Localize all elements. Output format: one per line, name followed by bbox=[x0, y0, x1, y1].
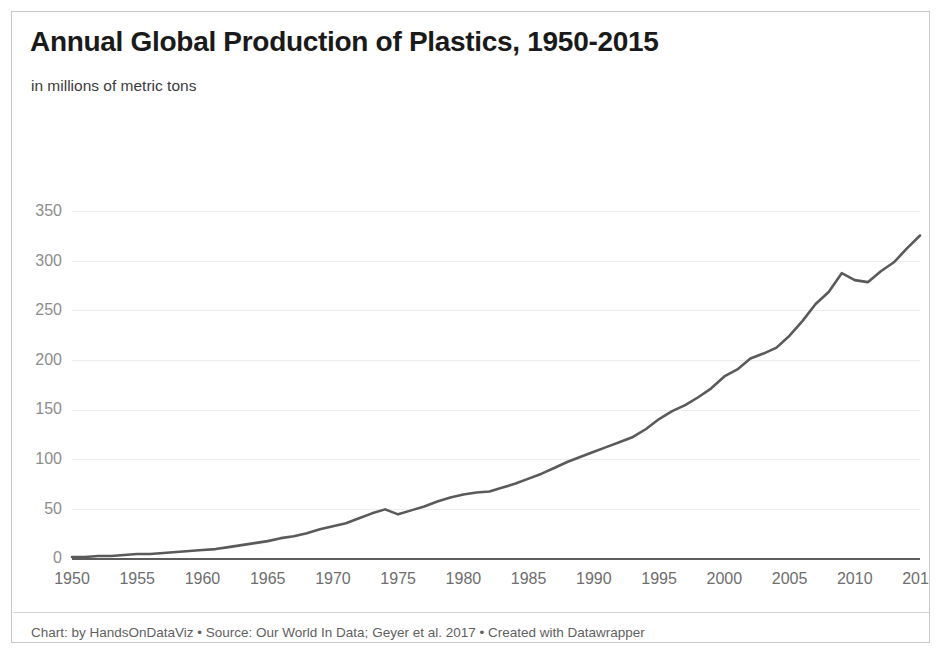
footer-divider bbox=[13, 612, 930, 613]
x-axis-tick-label: 1960 bbox=[185, 570, 221, 587]
x-axis-tick-label: 1980 bbox=[446, 570, 482, 587]
y-axis-tick-label: 100 bbox=[35, 450, 62, 467]
chart-subtitle: in millions of metric tons bbox=[31, 77, 196, 95]
y-axis-tick-label: 350 bbox=[35, 202, 62, 219]
chart-title: Annual Global Production of Plastics, 19… bbox=[30, 26, 659, 58]
plot-area: 050100150200250300350 195019551960196519… bbox=[12, 112, 929, 602]
y-axis-tick-label: 0 bbox=[53, 549, 62, 566]
y-axis-tick-label: 250 bbox=[35, 301, 62, 318]
x-axis-tick-label: 1965 bbox=[250, 570, 286, 587]
x-axis-tick-label: 1955 bbox=[119, 570, 155, 587]
y-axis-tick-label: 50 bbox=[44, 500, 62, 517]
x-axis-tick-label: 1975 bbox=[380, 570, 416, 587]
y-axis-tick-label: 150 bbox=[35, 400, 62, 417]
y-axis-tick-label: 300 bbox=[35, 252, 62, 269]
chart-footer-credits: Chart: by HandsOnDataViz • Source: Our W… bbox=[31, 625, 645, 640]
x-axis-tick-label: 1985 bbox=[511, 570, 547, 587]
line-chart-svg: 050100150200250300350 195019551960196519… bbox=[12, 112, 929, 602]
production-line-series bbox=[72, 236, 920, 558]
x-axis-tick-label: 2010 bbox=[837, 570, 873, 587]
x-axis-tick-label: 1995 bbox=[641, 570, 677, 587]
x-axis-tick-label: 1950 bbox=[54, 570, 90, 587]
x-axis-tick-labels: 1950195519601965197019751980198519901995… bbox=[54, 570, 929, 587]
x-axis-tick-label: 2005 bbox=[772, 570, 808, 587]
chart-card: Annual Global Production of Plastics, 19… bbox=[11, 11, 930, 643]
x-axis-tick-label: 1990 bbox=[576, 570, 612, 587]
x-axis-tick-label: 2015 bbox=[902, 570, 929, 587]
grid-lines bbox=[72, 212, 920, 510]
y-axis-tick-labels: 050100150200250300350 bbox=[35, 202, 62, 566]
x-axis-tick-label: 2000 bbox=[707, 570, 743, 587]
x-axis-tick-label: 1970 bbox=[315, 570, 351, 587]
y-axis-tick-label: 200 bbox=[35, 351, 62, 368]
